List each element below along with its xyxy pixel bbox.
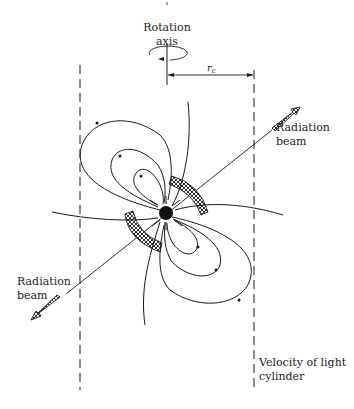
radiation-beam-right-line1: Radiation <box>276 121 330 135</box>
rotation-axis-label-line2: axis <box>143 35 191 49</box>
hatched-emission-region-lower <box>125 211 162 252</box>
light-cylinder-label-line2: cylinder <box>259 370 346 384</box>
radiation-beam-left-line2: beam <box>17 289 71 303</box>
radiation-beam-label-right: Radiation beam <box>276 121 330 149</box>
radiation-beam-label-left: Radiation beam <box>17 275 71 303</box>
radiation-beam-left-line1: Radiation <box>17 275 71 289</box>
hatched-emission-region-upper <box>169 176 208 215</box>
rc-label: rc <box>207 61 216 78</box>
light-cylinder-label: Velocity of light cylinder <box>259 356 346 384</box>
rotation-axis-label: Rotation axis <box>143 21 191 49</box>
rotation-axis-label-line1: Rotation <box>143 21 191 35</box>
rc-label-sub: c <box>212 67 216 75</box>
radiation-beam-right-line2: beam <box>276 135 330 149</box>
pulsar-diagram <box>0 0 354 409</box>
neutron-star <box>159 206 173 220</box>
light-cylinder-label-line1: Velocity of light <box>259 356 346 370</box>
